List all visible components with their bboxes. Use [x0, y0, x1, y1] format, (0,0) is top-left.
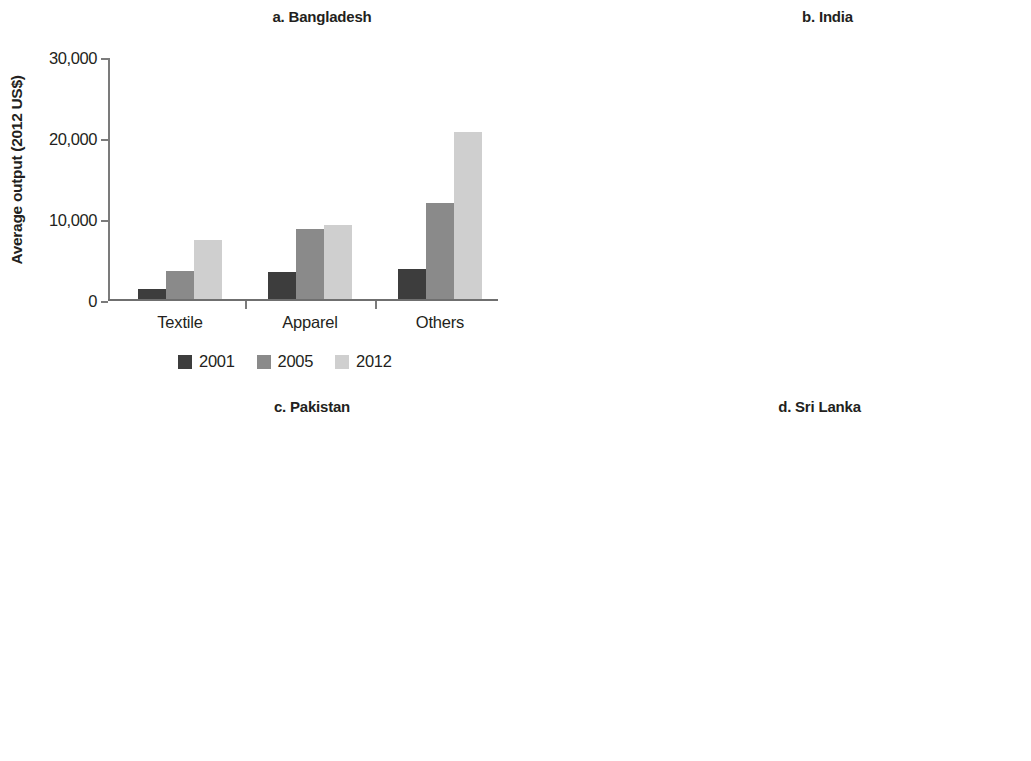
y-tick-mark [101, 301, 108, 303]
legend-bangladesh: 200120052012 [178, 352, 405, 371]
legend-swatch [178, 355, 192, 369]
panel-pakistan: c. Pakistan Average output (2012 US$) 02… [0, 390, 520, 761]
y-tick-label: 20,000 [49, 130, 97, 149]
legend-swatch [335, 355, 349, 369]
y-tick-mark [101, 139, 108, 141]
bar [398, 269, 426, 300]
x-tick-mark [375, 301, 377, 309]
legend-item: 2001 [178, 352, 235, 371]
x-tick-mark [245, 301, 247, 309]
bar [166, 271, 194, 299]
x-category-label: Apparel [282, 313, 337, 332]
bar [296, 229, 324, 299]
y-axis-line [108, 58, 110, 301]
legend-item: 2005 [257, 352, 314, 371]
plot-area-bangladesh: 010,00020,00030,000TextileApparelOthers [108, 58, 498, 301]
legend-swatch [257, 355, 271, 369]
y-tick-mark [101, 220, 108, 222]
panel-sri-lanka: d. Sri Lanka Average output (2012 US$) 0… [520, 390, 1031, 761]
panel-title-sri-lanka: d. Sri Lanka [520, 398, 1031, 415]
legend-label: 2001 [199, 352, 235, 371]
bar [324, 225, 352, 300]
y-tick-label: 10,000 [49, 211, 97, 230]
panel-title-india: b. India [520, 8, 1031, 25]
panel-india: b. India Average output (2012 US$) 010,0… [520, 0, 1031, 390]
bar [454, 132, 482, 300]
figure-grid: a. Bangladesh Average output (2012 US$) … [0, 0, 1031, 761]
panel-bangladesh: a. Bangladesh Average output (2012 US$) … [0, 0, 520, 390]
x-category-label: Others [416, 313, 464, 332]
legend-item: 2012 [335, 352, 392, 371]
bar [426, 203, 454, 299]
legend-label: 2012 [356, 352, 392, 371]
bar [194, 240, 222, 299]
y-axis-label-bangladesh: Average output (2012 US$) [4, 40, 30, 300]
y-tick-label: 0 [88, 292, 97, 311]
panel-title-bangladesh: a. Bangladesh [0, 8, 582, 25]
bar [138, 289, 166, 300]
bar [268, 272, 296, 300]
x-category-label: Textile [157, 313, 202, 332]
y-tick-label: 30,000 [49, 49, 97, 68]
panel-title-pakistan: c. Pakistan [0, 398, 572, 415]
x-axis-line [108, 299, 498, 301]
y-tick-mark [101, 58, 108, 60]
legend-label: 2005 [278, 352, 314, 371]
